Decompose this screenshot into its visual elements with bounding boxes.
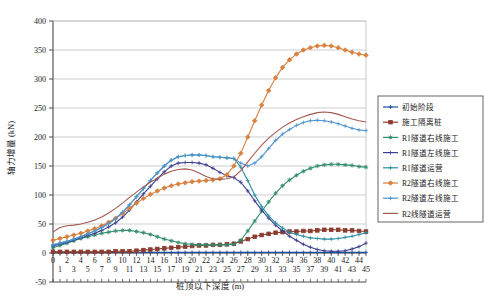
y-tick-label: 200 bbox=[34, 133, 46, 142]
x-tick-label: 19 bbox=[181, 265, 189, 274]
x-tick-label: 39 bbox=[320, 265, 328, 274]
x-axis-title: 桩顶以下深度 (m) bbox=[176, 281, 245, 291]
x-tick-label: 15 bbox=[153, 265, 161, 274]
x-tick-label: 43 bbox=[348, 265, 356, 274]
x-tick-label: 27 bbox=[237, 265, 245, 274]
x-tick-label: 2 bbox=[65, 256, 69, 265]
x-tick-label: 17 bbox=[167, 265, 175, 274]
x-tick-label: 12 bbox=[132, 256, 140, 265]
x-tick-label: 13 bbox=[139, 265, 147, 274]
x-tick-label: 25 bbox=[223, 265, 231, 274]
x-tick-label: 36 bbox=[299, 256, 307, 265]
x-tick-label: 28 bbox=[244, 256, 252, 265]
chart-legend: 初始阶段施工隔离桩R1隧道右线施工R1隧道左线施工R1隧道运营R2隧道右线施工R… bbox=[378, 96, 483, 222]
x-tick-label: 3 bbox=[72, 265, 76, 274]
x-tick-label: 10 bbox=[119, 256, 127, 265]
x-tick-label: 32 bbox=[272, 256, 280, 265]
x-tick-label: 37 bbox=[306, 265, 314, 274]
x-tick-label: 29 bbox=[251, 265, 259, 274]
x-tick-label: 42 bbox=[341, 256, 349, 265]
x-tick-label: 21 bbox=[195, 265, 203, 274]
chart-container: -50050100150200250300350400 012345678910… bbox=[0, 0, 485, 296]
y-tick-label: 300 bbox=[34, 75, 46, 84]
y-tick-label: 150 bbox=[34, 162, 46, 171]
x-tick-label: 9 bbox=[114, 265, 118, 274]
x-tick-label: 26 bbox=[230, 256, 238, 265]
x-tick-label: 34 bbox=[285, 256, 293, 265]
legend-label: R1隧道左线施工 bbox=[402, 148, 459, 158]
x-tick-label: 18 bbox=[174, 256, 182, 265]
y-tick-label: 350 bbox=[34, 46, 46, 55]
legend-label: R2隧道左线施工 bbox=[402, 193, 459, 203]
x-tick-label: 23 bbox=[209, 265, 217, 274]
x-tick-label: 7 bbox=[100, 265, 104, 274]
x-tick-label: 38 bbox=[313, 256, 321, 265]
x-tick-label: 44 bbox=[355, 256, 363, 265]
axial-force-line-chart: -50050100150200250300350400 012345678910… bbox=[0, 0, 485, 296]
legend-label: R2线隧道运营 bbox=[402, 209, 451, 219]
y-axis-title: 轴力增量 (kN) bbox=[6, 121, 16, 175]
y-tick-label: 250 bbox=[34, 104, 46, 113]
x-tick-label: 33 bbox=[279, 265, 287, 274]
x-tick-label: 16 bbox=[160, 256, 168, 265]
y-tick-label: 100 bbox=[34, 191, 46, 200]
legend-label: 施工隔离桩 bbox=[402, 117, 442, 127]
x-tick-label: 0 bbox=[51, 256, 55, 265]
x-tick-label: 14 bbox=[146, 256, 154, 265]
x-tick-label: 4 bbox=[79, 256, 83, 265]
x-tick-label: 1 bbox=[58, 265, 62, 274]
x-tick-label: 11 bbox=[126, 265, 134, 274]
x-tick-label: 40 bbox=[327, 256, 335, 265]
x-tick-label: 20 bbox=[188, 256, 196, 265]
x-tick-label: 35 bbox=[292, 265, 300, 274]
x-tick-label: 45 bbox=[362, 265, 370, 274]
x-tick-label: 8 bbox=[107, 256, 111, 265]
legend-label: R2隧道右线施工 bbox=[402, 178, 459, 188]
legend-label: R1隧道运营 bbox=[402, 163, 443, 173]
x-tick-label: 41 bbox=[334, 265, 342, 274]
x-tick-label: 5 bbox=[86, 265, 90, 274]
y-tick-label: 50 bbox=[38, 220, 46, 229]
x-tick-label: 30 bbox=[258, 256, 266, 265]
x-tick-label: 22 bbox=[202, 256, 210, 265]
x-tick-label: 6 bbox=[93, 256, 97, 265]
y-tick-label: 0 bbox=[42, 249, 46, 258]
x-tick-label: 31 bbox=[265, 265, 273, 274]
y-tick-label: -50 bbox=[35, 278, 46, 287]
x-tick-label: 24 bbox=[216, 256, 224, 265]
legend-label: 初始阶段 bbox=[402, 102, 434, 112]
y-tick-label: 400 bbox=[34, 17, 46, 26]
legend-label: R1隧道右线施工 bbox=[402, 133, 459, 143]
